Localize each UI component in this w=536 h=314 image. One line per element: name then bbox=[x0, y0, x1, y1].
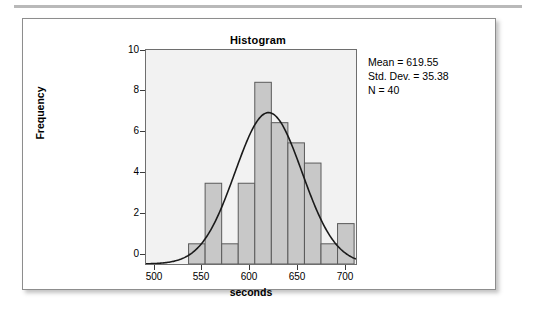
x-tick-mark-500 bbox=[154, 265, 155, 270]
stat-mean: Mean = 619.55 bbox=[368, 55, 449, 69]
histogram-bar bbox=[338, 224, 355, 264]
x-tick-mark-600 bbox=[249, 265, 250, 270]
figure-card: Histogram Frequency seconds 10 8 6 4 2 0… bbox=[22, 18, 496, 290]
y-tick-label-8: 8 bbox=[113, 84, 139, 95]
histogram-bars bbox=[189, 82, 355, 264]
y-tick-label-10: 10 bbox=[113, 44, 139, 55]
histogram-bar bbox=[271, 123, 288, 264]
x-tick-label-700: 700 bbox=[325, 271, 365, 282]
x-tick-label-550: 550 bbox=[181, 271, 221, 282]
histogram-bar bbox=[222, 244, 239, 264]
x-axis-label: seconds bbox=[145, 286, 357, 298]
statistics-annotation: Mean = 619.55 Std. Dev. = 35.38 N = 40 bbox=[368, 55, 449, 97]
histogram-bar bbox=[238, 183, 255, 264]
y-tick-label-6: 6 bbox=[113, 125, 139, 136]
x-tick-mark-550 bbox=[201, 265, 202, 270]
y-axis-label: Frequency bbox=[34, 43, 46, 183]
histogram-bar bbox=[288, 143, 305, 264]
plot-area bbox=[145, 49, 357, 265]
x-tick-label-500: 500 bbox=[134, 271, 174, 282]
x-tick-mark-700 bbox=[345, 265, 346, 270]
x-tick-label-600: 600 bbox=[229, 271, 269, 282]
y-tick-label-0: 0 bbox=[113, 248, 139, 259]
histogram-bar bbox=[255, 82, 272, 264]
chart-title: Histogram bbox=[143, 34, 373, 46]
histogram-plot bbox=[146, 50, 356, 264]
stat-n: N = 40 bbox=[368, 83, 449, 97]
y-tick-label-4: 4 bbox=[113, 166, 139, 177]
stat-std-dev: Std. Dev. = 35.38 bbox=[368, 69, 449, 83]
x-tick-label-650: 650 bbox=[277, 271, 317, 282]
histogram-bar bbox=[321, 244, 338, 264]
top-divider bbox=[14, 5, 522, 8]
x-tick-mark-650 bbox=[297, 265, 298, 270]
y-tick-label-2: 2 bbox=[113, 207, 139, 218]
